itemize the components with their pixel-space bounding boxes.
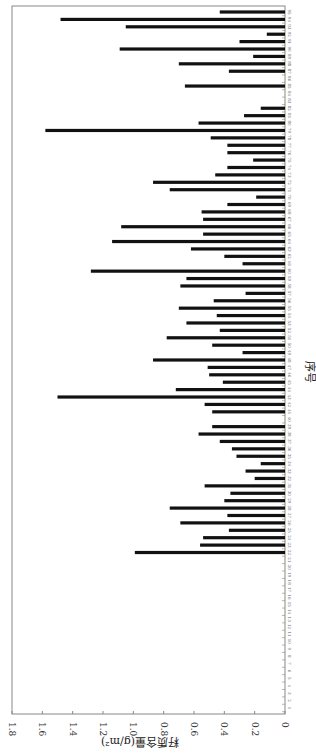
bar-94 [61,18,285,21]
value-tick-label: 1.2 [98,722,108,736]
bar-85 [185,84,285,87]
category-label: 67 [287,217,292,223]
category-label: 44 [287,387,292,393]
category-label: 87 [287,69,292,75]
value-tick-label: 1.8 [7,722,17,737]
bar-59 [186,277,285,280]
category-label: 77 [287,143,292,149]
bar-41 [212,410,285,413]
category-label: 46 [287,372,292,378]
bar-79 [45,129,285,132]
category-label: 33 [287,469,292,475]
bar-47 [208,366,285,369]
bar-61 [243,262,285,265]
category-label: 18 [287,580,292,586]
category-label: 7 [287,662,292,665]
category-label: 35 [287,454,292,460]
bar-93 [126,25,285,28]
bar-88 [179,62,285,65]
category-label: 83 [287,98,292,104]
bar-chart: 1234567891011121314151617181920212223242… [0,0,316,753]
bar-29 [224,499,285,502]
bar-22 [135,551,285,554]
category-label: 4 [287,685,292,688]
category-label: 50 [287,343,292,349]
bar-42 [205,403,285,406]
bar-33 [246,469,285,472]
bar-50 [212,344,285,347]
category-label: 39 [287,424,292,430]
bar-71 [170,188,285,191]
category-label: 32 [287,476,292,482]
category-label: 13 [287,617,292,623]
category-label: 15 [287,602,292,608]
category-label: 48 [287,357,292,363]
bar-34 [261,462,285,465]
category-label: 22 [287,550,292,556]
category-label: 10 [287,639,292,645]
category-label: 41 [287,409,292,414]
category-label: 19 [287,572,292,578]
category-label: 31 [287,483,292,488]
category-label: 36 [287,446,292,452]
bar-87 [229,70,285,73]
category-label: 76 [287,150,292,156]
category-label: 62 [287,254,292,260]
bar-95 [220,10,285,13]
category-label: 12 [287,624,292,630]
category-label: 88 [287,61,292,67]
category-label: 24 [287,535,292,541]
bar-24 [203,536,285,539]
category-label: 16 [287,594,292,600]
category-label: 28 [287,506,292,512]
bar-45 [223,381,285,384]
bar-74 [227,166,285,169]
bar-39 [212,425,285,428]
category-label: 63 [287,246,292,252]
bar-30 [230,492,285,495]
category-label: 43 [287,394,292,400]
bar-72 [153,181,285,184]
category-label: 23 [287,543,292,549]
category-label: 80 [287,121,292,127]
value-tick-label: 0.2 [250,722,260,736]
bar-70 [256,196,285,199]
bar-66 [121,225,285,228]
category-label: 64 [287,239,292,245]
category-label: 81 [287,113,292,118]
bar-92 [267,33,285,36]
value-tick-label: 1.4 [68,722,78,737]
bar-53 [186,321,285,324]
bar-49 [243,351,285,354]
bar-77 [227,144,285,147]
bar-62 [224,255,285,258]
category-label: 26 [287,520,292,526]
value-tick-label: 1.0 [128,722,138,737]
category-label: 95 [287,9,292,15]
category-label: 54 [287,313,292,319]
category-label: 79 [287,128,292,134]
bar-43 [58,395,286,398]
bar-67 [203,218,285,221]
category-label: 92 [287,32,292,38]
bar-58 [180,284,285,287]
y-axis-title: 籽质含量(g/m²) [101,735,179,749]
bar-90 [120,47,285,50]
bar-36 [232,447,285,450]
value-tick-label: 0.6 [189,722,199,737]
category-label: 2 [287,699,292,702]
category-label: 75 [287,158,292,164]
category-label: 57 [287,291,292,297]
bar-37 [220,440,285,443]
category-label: 73 [287,172,292,178]
bars [45,10,285,554]
bar-32 [255,477,285,480]
category-label: 29 [287,498,292,504]
bar-51 [167,336,285,339]
category-label: 25 [287,528,292,534]
category-label: 11 [287,631,292,636]
category-label: 90 [287,46,292,52]
bar-54 [217,314,285,317]
bar-48 [153,358,285,361]
category-label: 21 [287,557,292,562]
